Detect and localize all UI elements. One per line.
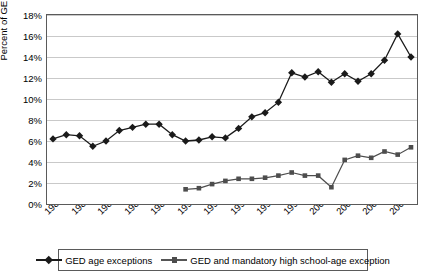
data-point-diamond bbox=[63, 131, 70, 138]
data-point-square bbox=[250, 177, 255, 182]
legend-item-ged-mandatory-hs-age: GED and mandatory high school-age except… bbox=[161, 255, 390, 266]
y-tick-label: 0% bbox=[0, 200, 42, 209]
chart-legend: GED age exceptions GED and mandatory hig… bbox=[58, 249, 368, 271]
y-tick-label: 14% bbox=[0, 53, 42, 62]
data-point-diamond bbox=[129, 124, 136, 131]
data-point-square bbox=[303, 173, 308, 178]
data-point-diamond bbox=[208, 133, 215, 140]
series-lines bbox=[47, 15, 417, 204]
data-point-square bbox=[409, 145, 414, 150]
y-tick-label: 16% bbox=[0, 32, 42, 41]
y-tick-label: 2% bbox=[0, 179, 42, 188]
data-point-square bbox=[382, 149, 387, 154]
data-point-diamond bbox=[142, 121, 149, 128]
data-point-square bbox=[356, 153, 361, 158]
data-point-square bbox=[329, 185, 334, 190]
data-point-square bbox=[316, 173, 321, 178]
data-point-square bbox=[342, 158, 347, 163]
square-marker-icon bbox=[172, 257, 178, 263]
ged-line-chart: Percent of GED test takers 18%16%14%12%1… bbox=[0, 0, 429, 279]
data-point-diamond bbox=[49, 135, 56, 142]
y-tick-label: 18% bbox=[0, 11, 42, 20]
data-point-square bbox=[395, 152, 400, 157]
plot-area bbox=[46, 14, 418, 205]
data-point-diamond bbox=[354, 78, 361, 85]
y-tick-label: 12% bbox=[0, 74, 42, 83]
data-point-square bbox=[210, 182, 215, 187]
data-point-diamond bbox=[301, 73, 308, 80]
data-point-square bbox=[223, 179, 228, 184]
data-point-square bbox=[236, 177, 241, 182]
legend-line-diamond bbox=[36, 259, 62, 260]
series-line-2 bbox=[186, 147, 411, 189]
data-point-square bbox=[183, 187, 188, 192]
data-point-square bbox=[263, 175, 268, 180]
data-point-square bbox=[289, 170, 294, 175]
data-point-square bbox=[369, 156, 374, 161]
data-point-diamond bbox=[407, 53, 414, 60]
data-point-diamond bbox=[288, 69, 295, 76]
series-line-1 bbox=[53, 34, 411, 146]
y-tick-label: 8% bbox=[0, 116, 42, 125]
data-point-diamond bbox=[182, 137, 189, 144]
y-tick-label: 4% bbox=[0, 158, 42, 167]
legend-label-1: GED age exceptions bbox=[65, 255, 152, 266]
data-point-diamond bbox=[341, 70, 348, 77]
diamond-marker-icon bbox=[45, 256, 53, 264]
y-tick-label: 6% bbox=[0, 137, 42, 146]
data-point-diamond bbox=[394, 30, 401, 37]
y-tick-label: 10% bbox=[0, 95, 42, 104]
legend-item-ged-age-exceptions: GED age exceptions bbox=[36, 255, 152, 266]
data-point-square bbox=[197, 186, 202, 191]
legend-line-square bbox=[161, 259, 187, 260]
legend-label-2: GED and mandatory high school-age except… bbox=[190, 255, 390, 266]
data-point-square bbox=[276, 173, 281, 178]
data-point-diamond bbox=[195, 136, 202, 143]
